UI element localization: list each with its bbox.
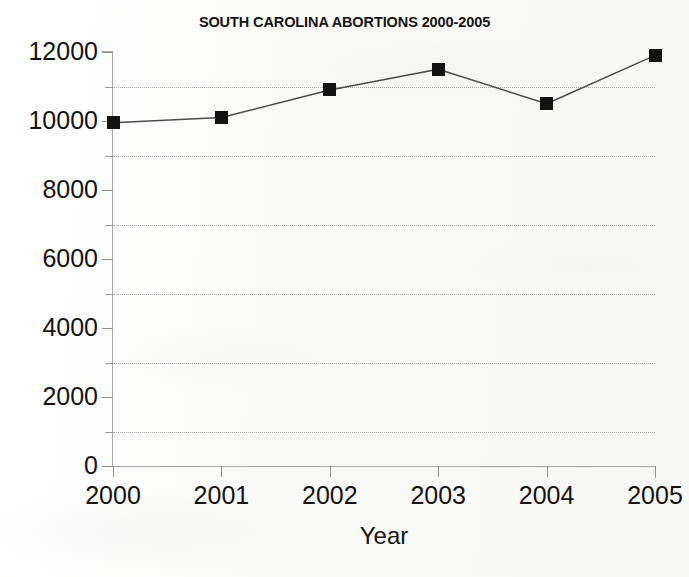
data-point-marker xyxy=(540,97,553,110)
gridline xyxy=(113,156,655,157)
gridline xyxy=(113,225,655,226)
x-axis-tick-label: 2002 xyxy=(270,483,390,508)
y-axis-tick-label: 12000 xyxy=(0,39,98,64)
x-axis-tick-label: 2001 xyxy=(161,483,281,508)
x-axis-tick xyxy=(655,466,656,477)
x-axis-tick-label: 2003 xyxy=(378,483,498,508)
y-axis-tick xyxy=(102,328,113,329)
x-axis-title: Year xyxy=(113,522,655,550)
y-axis-tick-label: 6000 xyxy=(0,246,98,271)
y-axis-tick-label: 2000 xyxy=(0,384,98,409)
x-axis-tick xyxy=(547,466,548,477)
y-axis-minor-tick xyxy=(105,156,113,157)
y-axis-minor-tick xyxy=(105,363,113,364)
gridline xyxy=(113,363,655,364)
data-point-marker xyxy=(323,83,336,96)
x-axis-tick xyxy=(330,466,331,477)
y-axis-tick-label: 8000 xyxy=(0,177,98,202)
y-axis-minor-tick xyxy=(105,87,113,88)
gridline xyxy=(113,294,655,295)
data-point-marker xyxy=(215,111,228,124)
x-axis-line xyxy=(112,466,656,467)
y-axis-tick xyxy=(102,52,113,53)
data-point-marker xyxy=(432,63,445,76)
y-axis-minor-tick xyxy=(105,294,113,295)
line-chart: SOUTH CAROLINA ABORTIONS 2000-2005 02000… xyxy=(0,0,689,577)
y-axis-minor-tick xyxy=(105,225,113,226)
plot-area xyxy=(113,52,655,466)
x-axis-tick-label: 2000 xyxy=(53,483,173,508)
data-point-marker xyxy=(107,116,120,129)
gridline xyxy=(113,87,655,88)
y-axis-tick-label: 4000 xyxy=(0,315,98,340)
y-axis-tick xyxy=(102,397,113,398)
chart-title: SOUTH CAROLINA ABORTIONS 2000-2005 xyxy=(0,14,689,30)
gridline xyxy=(113,432,655,433)
x-axis-tick-label: 2004 xyxy=(487,483,607,508)
y-axis-minor-tick xyxy=(105,432,113,433)
data-point-marker xyxy=(649,49,662,62)
x-axis-tick xyxy=(221,466,222,477)
y-axis-tick-label: 0 xyxy=(0,453,98,478)
x-axis-tick xyxy=(113,466,114,477)
y-axis-tick xyxy=(102,259,113,260)
y-axis-tick-label: 10000 xyxy=(0,108,98,133)
x-axis-tick xyxy=(438,466,439,477)
y-axis-tick xyxy=(102,466,113,467)
y-axis-tick xyxy=(102,190,113,191)
x-axis-tick-label: 2005 xyxy=(595,483,689,508)
